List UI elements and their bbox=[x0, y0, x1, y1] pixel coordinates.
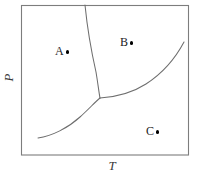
data-point-c-label: C bbox=[146, 125, 154, 137]
fusion-curve bbox=[85, 5, 100, 98]
data-point-c-marker-icon bbox=[156, 130, 159, 133]
vaporization-curve bbox=[100, 42, 184, 98]
x-axis-label: T bbox=[103, 159, 121, 172]
y-axis-label: P bbox=[2, 69, 15, 87]
data-point-c: C bbox=[146, 125, 159, 137]
data-point-b: B bbox=[120, 36, 133, 48]
data-point-a-label: A bbox=[55, 45, 64, 57]
data-point-a-marker-icon bbox=[66, 50, 69, 53]
phase-diagram-figure: P T A B C bbox=[0, 0, 198, 174]
data-point-b-marker-icon bbox=[130, 41, 133, 44]
data-point-b-label: B bbox=[120, 36, 128, 48]
plot-frame bbox=[22, 6, 189, 156]
data-point-a: A bbox=[55, 45, 69, 57]
sublimation-curve bbox=[38, 98, 100, 138]
phase-diagram-canvas bbox=[0, 0, 198, 174]
